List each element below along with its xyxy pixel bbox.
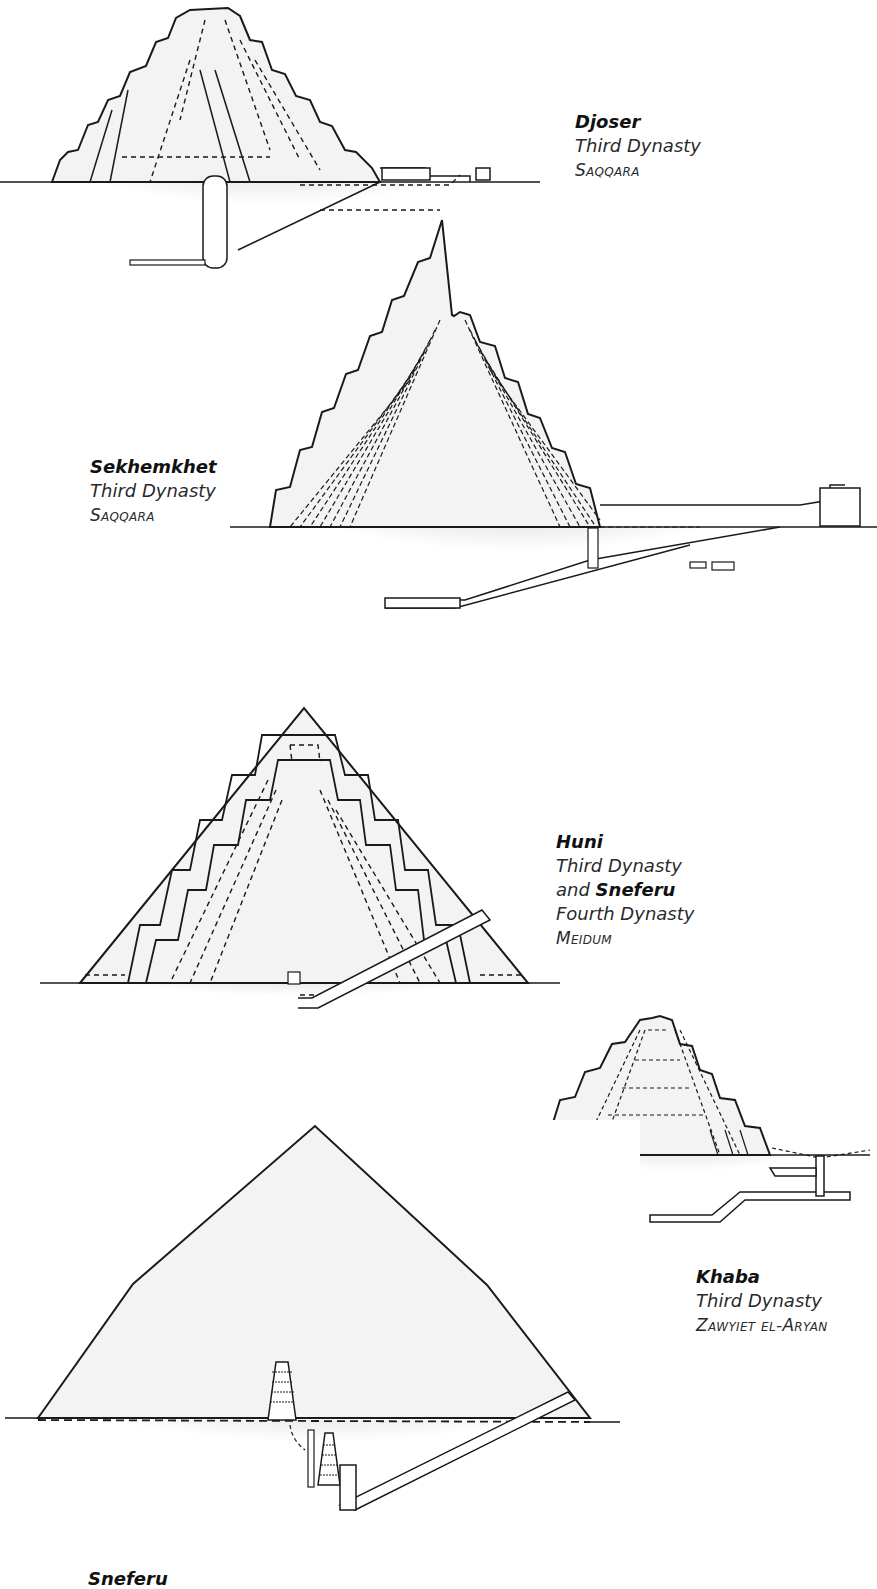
djoser-section [0,8,560,297]
label-sneferu: Sneferu [88,1567,168,1589]
label-meidum: Huni Third Dynasty and Sneferu Fourth Dy… [556,830,694,950]
khaba-name: Khaba [696,1265,827,1289]
meidum-dynasty2: Fourth Dynasty [556,902,694,926]
meidum-dynasty: Third Dynasty [556,854,694,878]
label-djoser: Djoser Third Dynasty Saqqara [575,110,701,182]
meidum-name2: Sneferu [596,879,676,900]
meidum-section [0,700,600,1048]
meidum-name: Huni [556,830,694,854]
djoser-name: Djoser [575,110,701,134]
sekhemkhet-site: Saqqara [90,503,217,527]
djoser-site: Saqqara [575,158,701,182]
meidum-and-line: and Sneferu [556,878,694,902]
sekhemkhet-name: Sekhemkhet [90,455,217,479]
sneferu-section [0,1120,640,1530]
sekhemkhet-section [0,220,877,647]
djoser-shaft [203,176,227,268]
khaba-site: Zawyiet el-Aryan [696,1313,827,1337]
meidum-site: Meidum [556,926,694,950]
sneferu-name: Sneferu [88,1567,168,1589]
label-sekhemkhet: Sekhemkhet Third Dynasty Saqqara [90,455,217,527]
sekhemkhet-dynasty: Third Dynasty [90,479,217,503]
djoser-dynasty: Third Dynasty [575,134,701,158]
label-khaba: Khaba Third Dynasty Zawyiet el-Aryan [696,1265,827,1337]
meidum-conjunction: and [556,879,590,900]
khaba-dynasty: Third Dynasty [696,1289,827,1313]
